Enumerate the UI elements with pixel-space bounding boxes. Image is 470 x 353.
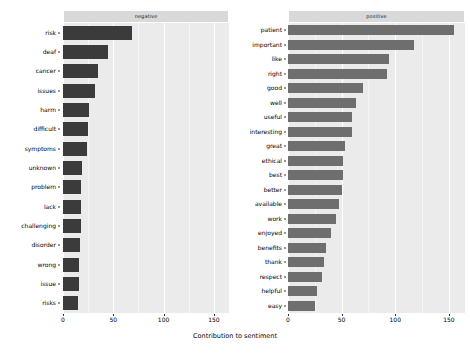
bar[interactable] xyxy=(288,257,324,267)
x-axis-tick-label: 150 xyxy=(208,317,219,323)
y-axis-tick-label: cancer xyxy=(36,68,56,74)
bar[interactable] xyxy=(288,272,322,282)
y-axis-tick-label: right xyxy=(268,71,282,77)
bar-row[interactable] xyxy=(288,54,465,64)
bar-row[interactable] xyxy=(63,258,229,272)
bar[interactable] xyxy=(288,199,339,209)
y-axis-tick-label: respect xyxy=(260,274,282,280)
bar[interactable] xyxy=(63,296,78,310)
y-axis-tick-label: available xyxy=(255,201,282,207)
bar[interactable] xyxy=(63,238,80,252)
bar-row[interactable] xyxy=(288,257,465,267)
bar[interactable] xyxy=(288,286,317,296)
bar[interactable] xyxy=(288,83,363,93)
bar-row[interactable] xyxy=(63,84,229,98)
plot-area-positive xyxy=(288,23,465,313)
bar[interactable] xyxy=(63,84,95,98)
bar-row[interactable] xyxy=(63,277,229,291)
bar-row[interactable] xyxy=(288,272,465,282)
bar-row[interactable] xyxy=(288,301,465,311)
x-axis-tick-label: 100 xyxy=(158,317,169,323)
bar[interactable] xyxy=(63,161,82,175)
y-axis-tick-mark xyxy=(58,148,60,149)
x-axis-title: Contribution to sentiment xyxy=(0,333,470,340)
y-axis-tick-mark xyxy=(58,32,60,33)
bar[interactable] xyxy=(288,243,326,253)
facet-panel-negative: negative xyxy=(63,10,229,313)
bar[interactable] xyxy=(63,258,79,272)
y-axis-tick-label: important xyxy=(252,42,282,48)
bar-row[interactable] xyxy=(288,228,465,238)
y-axis-tick-mark xyxy=(58,168,60,169)
bar[interactable] xyxy=(288,214,336,224)
bar[interactable] xyxy=(63,45,108,59)
bar[interactable] xyxy=(288,170,343,180)
y-axis-tick-label: disorder xyxy=(31,242,56,248)
facet-strip-label-negative: negative xyxy=(135,14,158,19)
y-axis-tick-mark xyxy=(58,303,60,304)
bar-row[interactable] xyxy=(63,219,229,233)
bar[interactable] xyxy=(63,64,98,78)
bar-row[interactable] xyxy=(288,156,465,166)
bar-row[interactable] xyxy=(63,238,229,252)
bar[interactable] xyxy=(63,142,87,156)
bar[interactable] xyxy=(288,98,356,108)
y-axis-tick-mark xyxy=(284,291,286,292)
bar[interactable] xyxy=(288,301,315,311)
bar[interactable] xyxy=(288,112,352,122)
sentiment-contribution-chart: negative riskdeafcancerissuesharmdifficu… xyxy=(0,0,470,353)
bar-row[interactable] xyxy=(288,286,465,296)
y-axis-tick-mark xyxy=(284,189,286,190)
y-axis-tick-label: better xyxy=(264,187,282,193)
bar-row[interactable] xyxy=(63,26,229,40)
bar[interactable] xyxy=(288,69,387,79)
x-axis-positive: 050100150 xyxy=(288,314,465,328)
bar-row[interactable] xyxy=(63,161,229,175)
bar-row[interactable] xyxy=(288,25,465,35)
bar[interactable] xyxy=(63,103,89,117)
bar[interactable] xyxy=(63,200,81,214)
bar-row[interactable] xyxy=(288,69,465,79)
y-axis-tick-mark xyxy=(284,117,286,118)
bar-row[interactable] xyxy=(63,180,229,194)
bar[interactable] xyxy=(288,141,345,151)
bar-row[interactable] xyxy=(63,200,229,214)
bar-row[interactable] xyxy=(288,98,465,108)
bar-row[interactable] xyxy=(63,142,229,156)
bar[interactable] xyxy=(63,219,81,233)
y-axis-tick-mark xyxy=(284,30,286,31)
bar[interactable] xyxy=(63,180,81,194)
bar-row[interactable] xyxy=(288,185,465,195)
bar-row[interactable] xyxy=(288,127,465,137)
bar-row[interactable] xyxy=(63,64,229,78)
y-axis-tick-mark xyxy=(284,233,286,234)
bar-row[interactable] xyxy=(288,40,465,50)
y-axis-tick-label: thank xyxy=(265,259,282,265)
x-axis-tick-label: 150 xyxy=(443,317,454,323)
y-axis-tick-label: enjoyed xyxy=(258,230,282,236)
bar[interactable] xyxy=(288,228,331,238)
bar-row[interactable] xyxy=(288,214,465,224)
bar[interactable] xyxy=(288,54,389,64)
bar-row[interactable] xyxy=(288,170,465,180)
bar-row[interactable] xyxy=(288,199,465,209)
bar[interactable] xyxy=(288,127,352,137)
bar-row[interactable] xyxy=(288,141,465,151)
bar[interactable] xyxy=(63,122,88,136)
bar-row[interactable] xyxy=(63,296,229,310)
bar[interactable] xyxy=(288,156,343,166)
bar-row[interactable] xyxy=(288,83,465,93)
bar[interactable] xyxy=(288,185,342,195)
bar[interactable] xyxy=(288,40,414,50)
bar-row[interactable] xyxy=(288,112,465,122)
bar-row[interactable] xyxy=(63,45,229,59)
bar-row[interactable] xyxy=(288,243,465,253)
y-axis-tick-label: interesting xyxy=(250,129,282,135)
bar[interactable] xyxy=(288,25,454,35)
bar[interactable] xyxy=(63,26,132,40)
y-axis-tick-label: best xyxy=(269,172,282,178)
bar[interactable] xyxy=(63,277,79,291)
bar-row[interactable] xyxy=(63,103,229,117)
bar-row[interactable] xyxy=(63,122,229,136)
y-axis-tick-label: challenging xyxy=(21,223,56,229)
